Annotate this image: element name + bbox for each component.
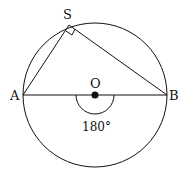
angle-label: 180°: [82, 120, 111, 134]
center-point: [92, 92, 99, 99]
label-b: B: [169, 88, 179, 103]
right-angle-mark: [66, 29, 75, 35]
label-o: O: [90, 76, 101, 91]
chord-sb: [69, 25, 167, 95]
semicircle-angle-diagram: S A B O 180°: [0, 0, 181, 176]
label-a: A: [9, 88, 20, 103]
chord-as: [23, 25, 69, 95]
label-s: S: [63, 7, 72, 22]
